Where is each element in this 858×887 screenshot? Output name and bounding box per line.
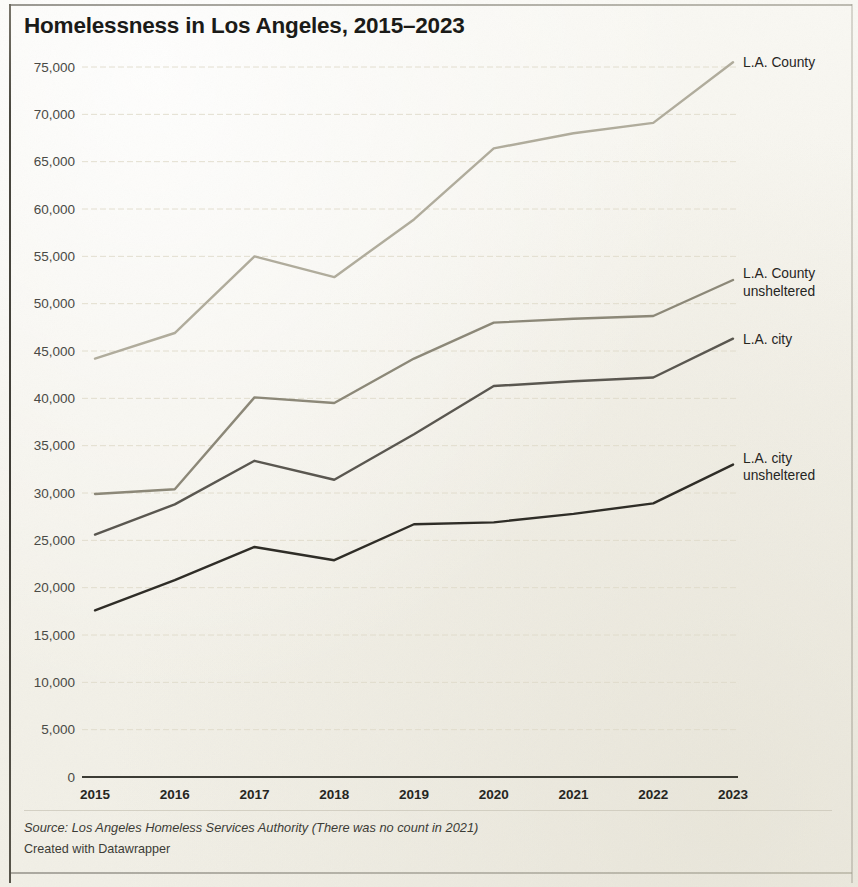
y-axis-tick-label: 45,000 <box>34 344 75 359</box>
series-line <box>95 280 733 494</box>
footer-credit-text: Created with Datawrapper <box>24 842 824 856</box>
chart-footer: Source: Los Angeles Homeless Services Au… <box>24 820 824 856</box>
y-axis-tick-label: 40,000 <box>34 391 75 406</box>
footer-divider <box>24 810 832 811</box>
y-axis-tick-label: 65,000 <box>34 154 75 169</box>
footer-source-text: Source: Los Angeles Homeless Services Au… <box>24 820 824 835</box>
series-label: unsheltered <box>743 284 815 299</box>
gridlines <box>82 67 738 777</box>
y-axis-tick-label: 15,000 <box>34 628 75 643</box>
x-axis-tick-label: 2018 <box>319 787 350 802</box>
y-axis-tick-label: 25,000 <box>34 533 75 548</box>
y-axis-tick-label: 5,000 <box>41 722 75 737</box>
x-axis-tick-label: 2021 <box>558 787 589 802</box>
y-axis-tick-label: 0 <box>67 770 75 785</box>
y-axis-tick-label: 50,000 <box>34 296 75 311</box>
y-axis-tick-label: 35,000 <box>34 438 75 453</box>
y-axis-tick-label: 30,000 <box>34 486 75 501</box>
x-axis-tick-label: 2016 <box>160 787 191 802</box>
chart-svg: 05,00010,00015,00020,00025,00030,00035,0… <box>0 0 858 887</box>
series-label: L.A. County <box>743 266 815 281</box>
series-label: unsheltered <box>743 468 815 483</box>
x-axis-tick-label: 2019 <box>399 787 429 802</box>
series-label: L.A. city <box>743 332 792 347</box>
series-label: L.A. County <box>743 55 815 70</box>
series-line <box>95 465 733 611</box>
x-axis-tick-label: 2023 <box>718 787 749 802</box>
x-axis-tick-label: 2022 <box>638 787 668 802</box>
line-chart-plot: 05,00010,00015,00020,00025,00030,00035,0… <box>0 0 858 887</box>
y-axis-tick-label: 20,000 <box>34 580 75 595</box>
x-axis-tick-label: 2017 <box>239 787 269 802</box>
y-axis-tick-label: 60,000 <box>34 202 75 217</box>
x-axis-tick-labels: 201520162017201820192020202120222023 <box>80 787 749 802</box>
y-axis-tick-label: 75,000 <box>34 60 75 75</box>
y-axis-tick-label: 10,000 <box>34 675 75 690</box>
x-axis-tick-label: 2020 <box>479 787 509 802</box>
series-label: L.A. city <box>743 451 792 466</box>
series-lines <box>95 62 733 610</box>
series-line <box>95 62 733 358</box>
y-axis-tick-label: 55,000 <box>34 249 75 264</box>
y-axis-tick-labels: 05,00010,00015,00020,00025,00030,00035,0… <box>34 60 75 785</box>
x-axis-tick-label: 2015 <box>80 787 111 802</box>
y-axis-tick-label: 70,000 <box>34 107 75 122</box>
series-labels: L.A. CountyL.A. CountyunshelteredL.A. ci… <box>743 55 815 483</box>
